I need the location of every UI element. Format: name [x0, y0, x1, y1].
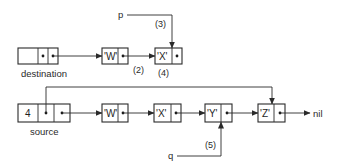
bottom-node-y-value: 'Y' — [207, 108, 218, 119]
destination-header-node — [18, 48, 58, 64]
step-label-2: (2) — [133, 65, 144, 75]
bottom-node-z-value: 'Z' — [260, 108, 270, 119]
destination-label: destination — [21, 68, 67, 79]
top-node-x-value: 'X' — [157, 51, 168, 62]
pointer-p-label: p — [118, 9, 123, 20]
linked-list-diagram: destination 'W' (2) 'X' (4) p (3) 4 sour… — [0, 0, 339, 167]
step-label-5: (5) — [205, 140, 216, 150]
pointer-dot-icon — [176, 55, 179, 58]
top-node-w-value: 'W' — [104, 51, 117, 62]
step-label-3: (3) — [155, 19, 166, 29]
step-label-4: (4) — [158, 68, 169, 78]
pointer-dot-icon — [42, 55, 45, 58]
nil-label: nil — [313, 108, 323, 119]
bottom-node-w-value: 'W' — [104, 108, 117, 119]
source-label: source — [30, 126, 59, 137]
pointer-q-label: q — [168, 150, 173, 161]
source-count: 4 — [25, 108, 31, 119]
arrow-icon — [177, 122, 221, 156]
bottom-node-x-value: 'X' — [156, 108, 167, 119]
